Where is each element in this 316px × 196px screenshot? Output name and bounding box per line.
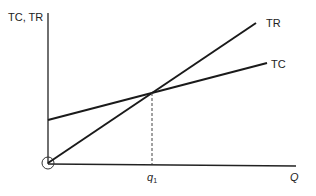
break-even-diagram: TC, TR TR TC Q q1: [0, 0, 316, 196]
x-axis: [48, 164, 296, 166]
q1-label: q1: [147, 171, 157, 184]
tc-line: [48, 63, 267, 120]
y-axis-label: TC, TR: [8, 11, 43, 23]
x-axis-label: Q: [290, 171, 299, 183]
tc-label: TC: [271, 58, 286, 70]
tr-label: TR: [266, 17, 281, 29]
q1-label-subscript: 1: [153, 177, 157, 184]
